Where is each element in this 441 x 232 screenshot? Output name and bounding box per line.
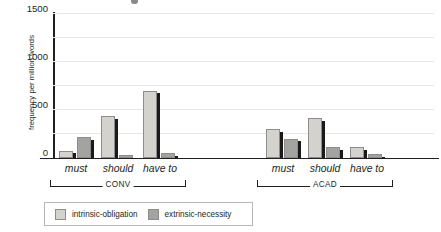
bar-side-shadow bbox=[157, 93, 160, 158]
legend-swatch-extrinsic-necessity bbox=[148, 209, 159, 220]
bar-extrinsic-necessity-must-conv bbox=[77, 137, 94, 158]
bar-side-shadow bbox=[115, 119, 118, 158]
bar-side-shadow bbox=[91, 140, 94, 158]
bar-intrinsic-obligation-must-conv bbox=[59, 151, 76, 158]
bar-side-shadow bbox=[340, 150, 343, 158]
y-axis-tick-label: 0 bbox=[43, 146, 48, 157]
gridline: 1500 bbox=[53, 85, 434, 86]
bar-intrinsic-obligation-have-to-conv bbox=[143, 91, 160, 158]
bar-side-shadow bbox=[322, 121, 325, 158]
legend-label: extrinsic-necessity bbox=[165, 210, 232, 219]
x-axis-category-label: must bbox=[65, 163, 88, 174]
y-axis-tick-label: 1000 bbox=[27, 50, 48, 61]
y-axis-tick-label: 1500 bbox=[27, 2, 48, 13]
cropped-title-descender bbox=[131, 0, 138, 4]
bar-chart-figure: frequency per million words 050010001500… bbox=[0, 0, 441, 232]
x-axis-category-label: must bbox=[272, 163, 295, 174]
x-axis-category-label: have to bbox=[350, 163, 384, 174]
bar-intrinsic-obligation-must-acad bbox=[266, 129, 283, 158]
bar-side-shadow bbox=[298, 141, 301, 158]
bar-face bbox=[326, 147, 340, 158]
legend-entry-extrinsic-necessity: extrinsic-necessity bbox=[148, 209, 232, 220]
x-axis-category-label: should bbox=[103, 163, 134, 174]
bar-extrinsic-necessity-should-conv bbox=[119, 155, 136, 158]
plot-area: 050010001500200025003000 bbox=[53, 14, 434, 158]
chart-legend: intrinsic-obligationextrinsic-necessity bbox=[44, 202, 253, 226]
bar-extrinsic-necessity-must-acad bbox=[284, 139, 301, 158]
bar-extrinsic-necessity-have-to-acad bbox=[368, 154, 385, 158]
group-label-acad: ACAD bbox=[310, 180, 340, 189]
bar-face bbox=[266, 129, 280, 158]
bar-face bbox=[59, 151, 73, 158]
bar-face bbox=[368, 154, 382, 158]
gridline: 3000 bbox=[53, 13, 434, 14]
bar-side-shadow bbox=[280, 132, 283, 158]
bar-face bbox=[308, 118, 322, 158]
bar-face bbox=[350, 147, 364, 158]
group-label-conv: CONV bbox=[103, 180, 134, 189]
legend-entry-intrinsic-obligation: intrinsic-obligation bbox=[55, 209, 138, 220]
bar-side-shadow bbox=[175, 156, 178, 158]
gridline: 1000 bbox=[53, 109, 434, 110]
bar-intrinsic-obligation-should-acad bbox=[308, 118, 325, 158]
bar-face bbox=[77, 137, 91, 158]
y-axis-tick-label: 500 bbox=[32, 98, 48, 109]
bar-side-shadow bbox=[364, 150, 367, 158]
bar-side-shadow bbox=[73, 153, 76, 158]
bar-extrinsic-necessity-have-to-conv bbox=[161, 153, 178, 158]
gridline: 2500 bbox=[53, 37, 434, 38]
bar-face bbox=[143, 91, 157, 158]
bar-extrinsic-necessity-should-acad bbox=[326, 147, 343, 158]
y-axis-title: frequency per million words bbox=[27, 8, 36, 158]
x-axis-category-label: have to bbox=[143, 163, 177, 174]
gridline: 2000 bbox=[53, 61, 434, 62]
bar-face bbox=[161, 153, 175, 158]
legend-label: intrinsic-obligation bbox=[72, 210, 138, 219]
bar-face bbox=[119, 155, 133, 158]
bar-side-shadow bbox=[382, 157, 385, 158]
x-axis-category-label: should bbox=[310, 163, 341, 174]
bar-face bbox=[284, 139, 298, 158]
bar-face bbox=[101, 116, 115, 158]
bar-intrinsic-obligation-should-conv bbox=[101, 116, 118, 158]
bar-intrinsic-obligation-have-to-acad bbox=[350, 147, 367, 158]
legend-swatch-intrinsic-obligation bbox=[55, 209, 66, 220]
